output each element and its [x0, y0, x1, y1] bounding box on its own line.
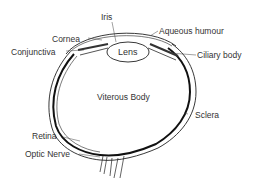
- label-retina: Retina: [32, 132, 57, 141]
- label-viterous-body: Viterous Body: [97, 93, 150, 102]
- label-conjunctiva: Conjunctiva: [11, 48, 55, 57]
- label-ciliary-body: Ciliary body: [197, 51, 241, 60]
- label-sclera: Sclera: [195, 111, 219, 120]
- label-iris: Iris: [101, 13, 112, 22]
- label-aqueous-humour: Aqueous humour: [159, 27, 224, 36]
- label-cornea: Cornea: [52, 35, 80, 44]
- label-lens: Lens: [118, 48, 138, 57]
- label-optic-nerve: Optic Nerve: [25, 150, 70, 159]
